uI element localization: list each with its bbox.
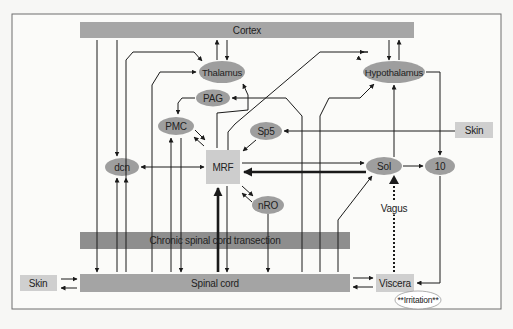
cortex-label: Cortex	[233, 25, 261, 36]
thalamus-label: Thalamus	[202, 67, 242, 78]
mrf-label: MRF	[212, 162, 233, 173]
sol-label: Sol	[377, 161, 391, 172]
skin-left-label: Skin	[29, 278, 48, 289]
skin-right-label: Skin	[465, 125, 484, 136]
diagram-canvas: Cortex Thalamus PAG PMC Sp5 Hypothalamus…	[0, 0, 513, 329]
spinal-cord-label: Spinal cord	[191, 278, 239, 289]
viscera-label: Viscera	[379, 278, 411, 289]
ten-label: 10	[435, 161, 446, 172]
irritation-label: **Irritation**	[397, 295, 438, 305]
sp5-label: Sp5	[257, 126, 274, 137]
hypothalamus-label: Hypothalamus	[365, 67, 423, 78]
dcn-label: dcn	[114, 162, 130, 173]
transection-label: Chronic spinal cord transection	[149, 235, 280, 246]
vagus-label: Vagus	[381, 202, 408, 215]
nro-label: nRO	[258, 200, 278, 211]
pag-label: PAG	[203, 93, 223, 104]
pmc-label: PMC	[165, 121, 187, 132]
